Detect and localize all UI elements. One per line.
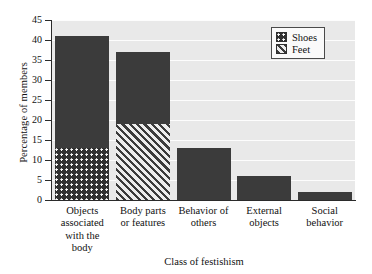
y-axis-tick-label: 0 <box>18 195 42 205</box>
y-axis-tick <box>45 140 51 141</box>
x-axis-category-label: Body partsor features <box>113 205 174 230</box>
legend-swatch-feet <box>276 44 287 54</box>
x-axis-category-label-line: Behavior of <box>173 205 234 217</box>
x-axis-line <box>51 200 356 201</box>
y-axis-tick-label: 10 <box>18 155 42 165</box>
bar-segment <box>237 176 291 200</box>
y-axis-tick <box>45 80 51 81</box>
x-axis-category-label-line: External <box>234 205 295 217</box>
bar-segment <box>177 148 231 200</box>
x-axis-category-label-line: others <box>173 217 234 229</box>
y-axis-line <box>51 20 52 201</box>
legend-label: Feet <box>292 44 310 55</box>
x-axis-category-label-line: body <box>52 242 113 254</box>
y-axis-tick-label: 25 <box>18 95 42 105</box>
x-axis-category-label-line: or features <box>113 217 174 229</box>
y-axis-tick <box>45 60 51 61</box>
y-axis-tick-label: 40 <box>18 35 42 45</box>
bar-segment <box>55 148 109 200</box>
y-axis-tick <box>45 40 51 41</box>
y-axis-tick <box>45 100 51 101</box>
y-axis-tick <box>45 180 51 181</box>
legend: ShoesFeet <box>271 27 325 59</box>
y-axis-tick-label: 30 <box>18 75 42 85</box>
y-axis-tick-label: 45 <box>18 15 42 25</box>
bar-segment <box>116 52 170 124</box>
x-axis-category-label-line: associated <box>52 217 113 229</box>
bar-segment <box>298 192 352 200</box>
x-axis-title: Class of festishism <box>52 256 356 267</box>
gridline <box>52 20 355 21</box>
y-axis-tick <box>45 160 51 161</box>
x-axis-category-label-line: Social <box>294 205 355 217</box>
y-axis-tick <box>45 200 51 201</box>
y-axis-tick-label: 15 <box>18 135 42 145</box>
x-axis-category-label-line: objects <box>234 217 295 229</box>
x-axis-category-label-line: Body parts <box>113 205 174 217</box>
y-axis-tick <box>45 20 51 21</box>
x-axis-category-label-line: behavior <box>294 217 355 229</box>
legend-swatch-shoes <box>276 32 287 42</box>
legend-label: Shoes <box>292 32 317 43</box>
x-axis-category-label: Objectsassociatedwith thebody <box>52 205 113 255</box>
y-axis-tick <box>45 120 51 121</box>
x-axis-category-label: Behavior ofothers <box>173 205 234 230</box>
x-axis-category-label-line: Objects <box>52 205 113 217</box>
y-axis-tick-label: 35 <box>18 55 42 65</box>
bar-chart: Percentage of members 051015202530354045… <box>0 0 372 274</box>
y-axis-tick-label: 20 <box>18 115 42 125</box>
x-axis-category-label: Externalobjects <box>234 205 295 230</box>
x-axis-category-label: Socialbehavior <box>294 205 355 230</box>
legend-item: Feet <box>276 43 317 55</box>
y-axis-tick-label: 5 <box>18 175 42 185</box>
x-axis-category-label-line: with the <box>52 230 113 242</box>
y-axis-title: Percentage of members <box>18 28 29 198</box>
bar-segment <box>55 36 109 148</box>
bar-segment <box>116 124 170 200</box>
legend-item: Shoes <box>276 31 317 43</box>
